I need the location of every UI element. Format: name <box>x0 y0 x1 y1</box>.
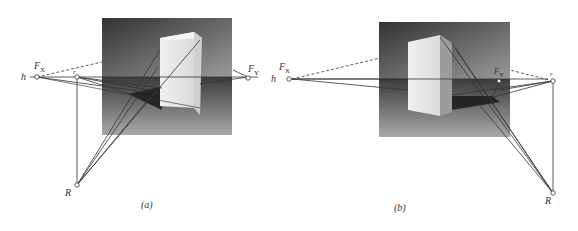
vanishing-point-fy-a <box>246 76 250 80</box>
station-point-r-b <box>551 191 555 195</box>
scene-image-a <box>102 18 232 135</box>
vanishing-point-fy-b <box>497 79 501 83</box>
fx-sub-b: X <box>285 67 290 75</box>
fx-sub-a: X <box>40 66 45 74</box>
perspective-diagram: h F X r F Y R (a) <box>0 0 578 231</box>
horizon-label-b: h <box>271 73 276 84</box>
fy-sub-b: Y <box>499 71 504 79</box>
scene-image-b <box>379 22 510 137</box>
r-label-a: r <box>73 68 76 76</box>
fy-sub-a: Y <box>254 69 259 77</box>
r-label-b: r <box>550 70 553 78</box>
panel-a: h F X r F Y R (a) <box>21 18 259 211</box>
caption-a: (a) <box>141 199 153 211</box>
vanishing-point-fx-b <box>287 77 291 81</box>
vanishing-point-fx-a <box>35 75 39 79</box>
station-label-a: R <box>64 187 71 198</box>
panel-b: h F X F Y r R (b) <box>271 22 555 214</box>
caption-b: (b) <box>394 202 406 214</box>
station-point-r-a <box>75 183 79 187</box>
station-label-b: R <box>544 195 551 206</box>
measure-point-r-b <box>551 79 555 83</box>
horizon-label-a: h <box>21 71 26 82</box>
